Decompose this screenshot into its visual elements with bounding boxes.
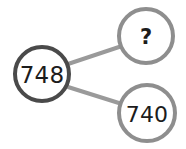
connector-whole-to-unknown <box>68 46 122 64</box>
whole-node-label: 748 <box>20 62 65 88</box>
diagram-svg: ? 740 748 <box>0 0 186 149</box>
part-node-known-label: 740 <box>126 102 169 127</box>
connector-whole-to-known <box>68 87 122 104</box>
number-bond-diagram: ? 740 748 <box>0 0 186 149</box>
part-node-unknown-label: ? <box>140 25 152 49</box>
